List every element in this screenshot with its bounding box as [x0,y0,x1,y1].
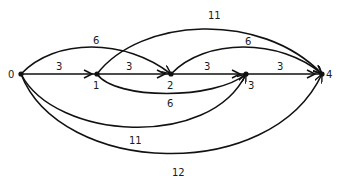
node-0 [18,71,23,76]
weight-2-4: 6 [245,36,251,47]
edge-2-4 [171,47,322,74]
edge-3-4 [246,70,322,78]
edge-0-2 [21,47,171,74]
weight-1-2: 3 [126,61,132,72]
node-1 [94,71,99,76]
node-label-1: 1 [93,80,99,91]
weight-2-3: 3 [204,61,210,72]
node-label-0: 0 [8,69,14,80]
node-4 [319,71,324,76]
weight-1-3: 6 [167,98,173,109]
weight-0-1: 3 [56,61,62,72]
node-label-4: 4 [326,69,332,80]
node-2 [168,71,173,76]
node-label-3: 3 [248,80,254,91]
edge-1-2 [97,70,171,78]
node-3 [243,71,248,76]
weight-0-2: 6 [93,35,99,46]
weight-0-4: 12 [172,167,185,178]
weight-0-3: 11 [129,135,142,146]
edge-0-3 [21,74,246,127]
node-label-2: 2 [167,80,173,91]
graph-canvas: 0 1 2 3 4 3 3 3 3 6 11 6 6 11 12 [0,0,338,184]
weight-3-4: 3 [277,61,283,72]
weight-1-4: 11 [208,10,221,21]
